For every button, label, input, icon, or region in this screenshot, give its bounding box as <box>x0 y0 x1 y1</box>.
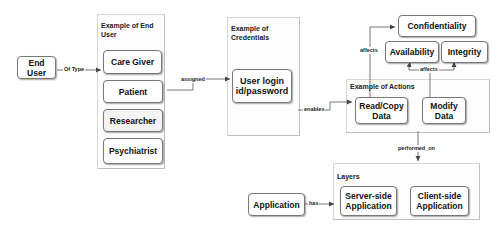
server-side-node[interactable]: Server-side Application <box>340 186 397 216</box>
edge-label-affects-left: affects <box>359 47 379 54</box>
patient-node[interactable]: Patient <box>103 80 163 103</box>
edge-label-affects-bottom: affects <box>419 66 439 73</box>
care-giver-node[interactable]: Care Giver <box>103 50 162 74</box>
confidentiality-node[interactable]: Confidentiality <box>398 15 476 37</box>
psychiatrist-node[interactable]: Psychiatrist <box>103 138 163 164</box>
availability-node[interactable]: Availability <box>385 41 439 63</box>
modify-node[interactable]: Modify Data <box>422 97 466 124</box>
edge-label-assigned: assigned <box>180 76 206 83</box>
edge-label-enables: enables <box>303 106 325 113</box>
credentials-node[interactable]: User login id/password <box>232 69 292 103</box>
researcher-node[interactable]: Researcher <box>103 109 163 132</box>
client-side-node[interactable]: Client-side Application <box>410 186 469 216</box>
end-user-node[interactable]: End User <box>17 56 56 79</box>
read-copy-node[interactable]: Read/Copy Data <box>355 97 408 124</box>
integrity-node[interactable]: Integrity <box>441 41 488 63</box>
edge-label-of-type: Of Type <box>63 66 85 73</box>
edge-label-has: has <box>308 200 319 207</box>
application-node[interactable]: Application <box>248 193 305 216</box>
edge-label-performed-on: performed_on <box>397 145 436 152</box>
